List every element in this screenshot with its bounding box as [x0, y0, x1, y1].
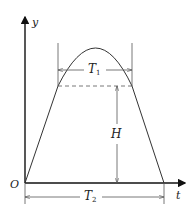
- origin-label: O: [10, 179, 19, 190]
- y-axis-label: y: [32, 17, 38, 28]
- diagram-canvas: y t O T1 H T2: [0, 0, 194, 214]
- t2-subscript: 2: [92, 196, 96, 204]
- t2-symbol: T: [84, 189, 92, 203]
- t1-subscript: 1: [96, 69, 100, 77]
- h-label: H: [111, 128, 121, 140]
- t1-label: T1: [88, 63, 100, 77]
- t1-symbol: T: [88, 62, 96, 76]
- t2-label: T2: [84, 190, 96, 204]
- x-axis-label: t: [176, 190, 180, 201]
- diagram-svg: [0, 0, 194, 214]
